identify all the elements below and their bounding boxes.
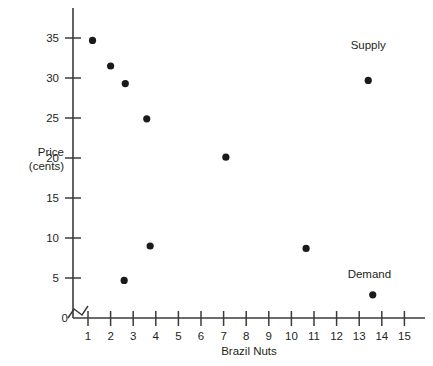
x-tick-label: 8 — [243, 330, 249, 342]
y-axis-title-line1: Price — [38, 146, 64, 158]
x-tick-label: 1 — [85, 330, 91, 342]
x-tick-label: 14 — [375, 330, 388, 342]
data-point — [121, 277, 128, 284]
x-tick-label: 7 — [220, 330, 226, 342]
y-tick-label: 35 — [46, 32, 59, 44]
origin-tick-label: 0 — [62, 312, 68, 324]
data-point — [222, 154, 229, 161]
data-point — [365, 77, 372, 84]
data-point — [147, 242, 154, 249]
x-tick-label: 11 — [308, 330, 320, 342]
x-tick-label: 13 — [353, 330, 366, 342]
x-tick-label: 12 — [330, 330, 343, 342]
data-point — [122, 80, 129, 87]
scatter-chart: 5101520253035 123456789101112131415 0 Su… — [0, 0, 433, 366]
x-tick-label: 2 — [107, 330, 113, 342]
data-point — [369, 291, 376, 298]
x-tick-label: 3 — [130, 330, 136, 342]
x-tick-label: 10 — [285, 330, 298, 342]
data-point — [302, 245, 309, 252]
y-tick-label: 10 — [46, 232, 59, 244]
x-axis-title: Brazil Nuts — [221, 345, 277, 357]
x-tick-label: 15 — [398, 330, 411, 342]
x-tick-label: 6 — [198, 330, 204, 342]
data-point — [107, 62, 114, 69]
y-tick-label: 5 — [53, 272, 59, 284]
series-label-demand: Demand — [348, 268, 391, 280]
series-label-supply: Supply — [351, 39, 386, 51]
data-point — [143, 115, 150, 122]
y-tick-label: 30 — [46, 72, 59, 84]
x-tick-label: 9 — [266, 330, 272, 342]
x-tick-label: 5 — [175, 330, 181, 342]
y-tick-label: 25 — [46, 112, 59, 124]
y-axis-title-line2: (cents) — [29, 160, 64, 172]
y-tick-label: 15 — [46, 192, 59, 204]
data-point — [89, 37, 96, 44]
plot-canvas: 5101520253035 123456789101112131415 0 Su… — [0, 0, 433, 366]
x-tick-label: 4 — [153, 330, 160, 342]
